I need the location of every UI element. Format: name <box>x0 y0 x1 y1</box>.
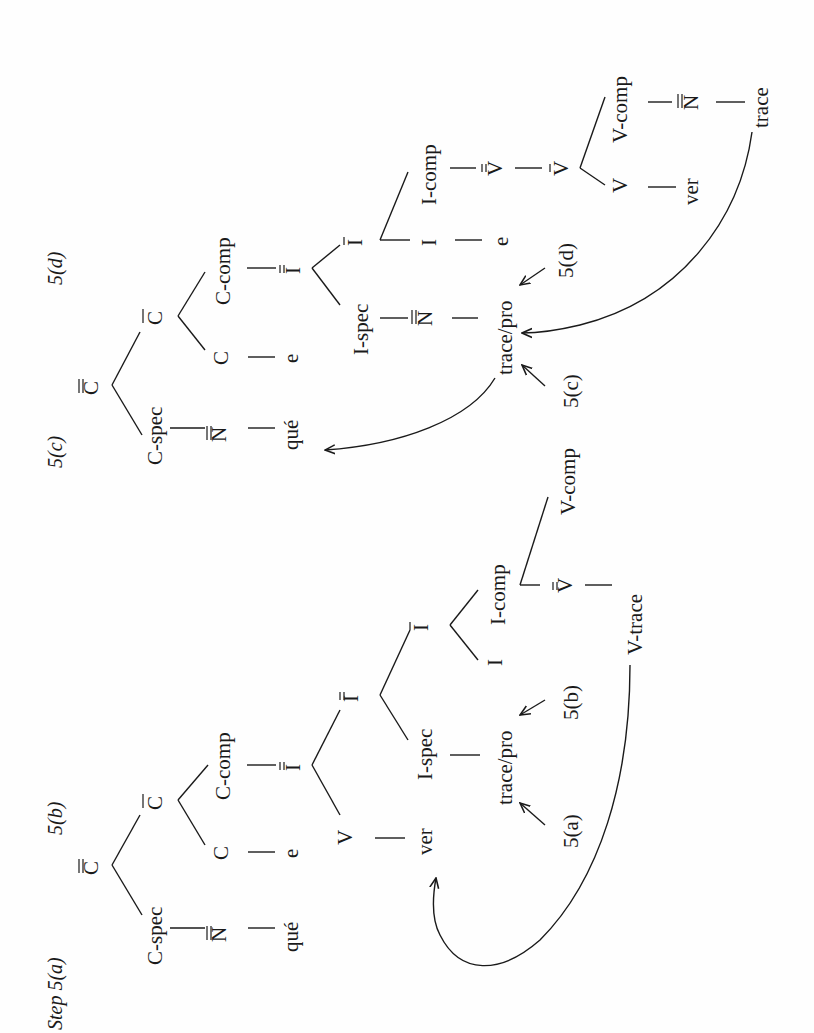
branch <box>112 385 142 435</box>
node-c-spec: C-spec <box>143 407 167 465</box>
node-c-bar: C <box>143 309 167 325</box>
step-label-5b: 5(b) <box>44 801 67 835</box>
branch <box>312 765 340 815</box>
node-c-head: C <box>209 351 233 365</box>
word-que: qué <box>279 922 303 952</box>
svg-text:C: C <box>143 311 167 325</box>
word-trace-pro: trace/pro <box>493 300 517 375</box>
branch <box>312 268 340 305</box>
node-np-object: N <box>678 94 703 110</box>
node-v-head: V <box>608 178 632 193</box>
node-vp: V <box>482 161 507 176</box>
svg-text:I: I <box>339 695 363 702</box>
syntax-tree-diagram: Step 5(a) 5(b) C C-spec N qué C C e <box>0 0 814 1033</box>
branch <box>178 316 205 350</box>
node-ip-upper: I <box>280 762 305 771</box>
branch <box>178 765 208 800</box>
node-i-comp: I-comp <box>417 144 441 205</box>
arrow-label-5b: 5(b) <box>559 685 583 720</box>
node-vp: V <box>553 578 577 593</box>
branch <box>178 800 205 845</box>
tree-step-5ab: Step 5(a) 5(b) C C-spec N qué C C e <box>44 448 647 1030</box>
branch <box>450 590 478 625</box>
node-v-trace: V-trace <box>623 594 647 655</box>
word-que: qué <box>279 420 303 450</box>
node-i-spec: I-spec <box>349 304 373 355</box>
node-np: N <box>207 926 231 942</box>
node-i-comp: I-comp <box>486 564 510 625</box>
book-page: Step 5(a) 5(b) C C-spec N qué C C e <box>0 0 814 1033</box>
node-i-spec: I-spec <box>413 729 437 780</box>
arrow-label-5a: 5(a) <box>559 814 583 848</box>
node-c-comp: C-comp <box>211 732 235 800</box>
branch <box>380 630 410 695</box>
node-c-head: C <box>209 846 233 860</box>
arrow-5b <box>520 700 545 715</box>
node-i-bar: I <box>343 237 367 246</box>
node-ip-lower: I <box>339 692 363 702</box>
branch <box>112 865 142 915</box>
node-i-head: I <box>417 239 441 246</box>
branch <box>112 815 140 865</box>
arrow-5a <box>520 803 545 825</box>
svg-text:I: I <box>343 239 367 246</box>
word-trace: trace <box>749 87 773 128</box>
step-label-5c: 5(c) <box>44 435 67 468</box>
movement-arrow-subject-to-que <box>325 378 495 450</box>
node-c-bar: C <box>143 794 167 810</box>
node-np-subject: N <box>412 310 437 326</box>
node-cp-root: C <box>79 859 103 875</box>
movement-arrow-v-to-ver <box>433 665 630 966</box>
arrow-label-5d: 5(d) <box>554 243 578 278</box>
branch <box>380 172 408 240</box>
branch <box>312 710 340 765</box>
svg-text:C: C <box>143 796 167 810</box>
node-v-comp: V-comp <box>556 448 580 515</box>
node-c-comp: C-comp <box>211 237 235 305</box>
word-e: e <box>279 354 303 363</box>
branch <box>580 168 605 185</box>
step-label-5a: Step 5(a) <box>44 957 67 1030</box>
arrow-5d <box>520 268 545 285</box>
node-v-bar: V <box>549 161 573 176</box>
branch <box>178 272 205 316</box>
branch <box>380 695 408 740</box>
branch <box>450 625 478 660</box>
word-ver: ver <box>679 178 703 205</box>
tree-step-5cd: 5(c) 5(d) C C-spec N qué C C e <box>44 76 773 468</box>
node-i-head: I <box>483 659 507 666</box>
node-i-bar: I <box>409 622 433 631</box>
branch <box>112 332 140 385</box>
branch <box>520 497 548 585</box>
step-label-5d: 5(d) <box>44 251 67 285</box>
branch <box>580 97 605 168</box>
node-v-adjoined: V <box>333 830 357 845</box>
node-cp-root: C <box>79 379 103 395</box>
word-e-infl: e <box>489 237 513 246</box>
arrow-label-5c: 5(c) <box>559 374 583 408</box>
word-e: e <box>279 849 303 858</box>
branch <box>312 245 340 268</box>
svg-text:I: I <box>409 624 433 631</box>
node-ip: I <box>280 265 305 274</box>
word-trace-pro: trace/pro <box>493 730 517 805</box>
node-v-comp: V-comp <box>608 76 632 143</box>
node-c-spec: C-spec <box>143 907 167 965</box>
node-np: N <box>207 426 231 442</box>
word-ver: ver <box>413 828 437 855</box>
svg-text:V: V <box>549 161 573 176</box>
arrow-5c <box>522 365 545 386</box>
